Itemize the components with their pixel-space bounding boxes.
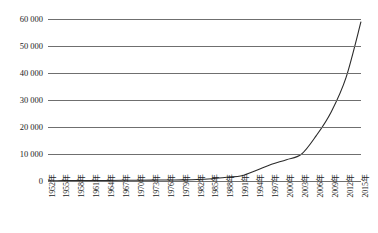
x-axis-tick-text: 1991年: [242, 174, 250, 197]
x-axis-tick-label: 2009年: [325, 184, 337, 194]
x-axis-tick-label: 1952年: [42, 184, 54, 194]
x-axis-tick-label: 1988年: [221, 184, 233, 194]
x-axis-tick-text: 1994年: [257, 174, 265, 197]
x-axis-tick-text: 1964年: [108, 174, 116, 197]
x-axis-tick-label: 1964年: [102, 184, 114, 194]
x-axis-tick-text: 1988年: [227, 174, 235, 197]
x-axis-tick-text: 1958年: [78, 174, 86, 197]
x-axis-tick-text: 1970年: [137, 174, 145, 197]
gridline: [48, 46, 361, 47]
x-axis-tick-text: 1955年: [63, 174, 71, 197]
x-axis-tick-text: 2003年: [301, 174, 309, 197]
gridline: [48, 100, 361, 101]
x-axis-tick-text: 1967年: [123, 174, 131, 197]
x-axis-tick-text: 1961年: [93, 174, 101, 197]
x-axis-tick-text: 2012年: [346, 174, 354, 197]
x-axis-tick-label: 1976年: [161, 184, 173, 194]
x-axis-tick-text: 1985年: [212, 174, 220, 197]
x-axis-tick-label: 2015年: [355, 184, 367, 194]
gridline: [48, 127, 361, 128]
x-axis-tick-label: 1997年: [266, 184, 278, 194]
x-axis-tick-label: 1982年: [191, 184, 203, 194]
y-axis-tick-label: 40 000: [20, 69, 43, 78]
x-axis-tick-label: 1985年: [206, 184, 218, 194]
gridline: [48, 154, 361, 155]
x-axis-tick-label: 1991年: [236, 184, 248, 194]
y-axis-tick-label: 60 000: [20, 15, 43, 24]
x-axis-tick-label: 1979年: [176, 184, 188, 194]
x-axis-labels: 1952年1955年1958年1961年1964年1967年1970年1973年…: [48, 184, 361, 232]
x-axis-tick-label: 1967年: [117, 184, 129, 194]
x-axis-tick-label: 2012年: [340, 184, 352, 194]
x-axis-tick-text: 1979年: [182, 174, 190, 197]
x-axis-tick-label: 2000年: [280, 184, 292, 194]
y-axis-tick-label: 10 000: [20, 150, 43, 159]
x-axis-tick-label: 1994年: [251, 184, 263, 194]
x-axis-tick-label: 1955年: [57, 184, 69, 194]
x-axis-tick-label: 1970年: [131, 184, 143, 194]
gridline: [48, 73, 361, 74]
gridline: [48, 19, 361, 20]
x-axis-tick-label: 1961年: [87, 184, 99, 194]
x-axis-tick-text: 2006年: [316, 174, 324, 197]
x-axis-tick-text: 1997年: [272, 174, 280, 197]
x-axis-tick-text: 1952年: [48, 174, 56, 197]
x-axis-tick-label: 1973年: [146, 184, 158, 194]
x-axis-tick-text: 1976年: [167, 174, 175, 197]
x-axis-tick-label: 2003年: [295, 184, 307, 194]
x-axis-tick-text: 2000年: [286, 174, 294, 197]
x-axis-tick-text: 1973年: [152, 174, 160, 197]
x-axis-tick-label: 1958年: [72, 184, 84, 194]
x-axis-tick-text: 2009年: [331, 174, 339, 197]
y-axis-tick-label: 20 000: [20, 123, 43, 132]
line-chart: 010 00020 00030 00040 00050 00060 000 19…: [0, 0, 378, 233]
x-axis-tick-text: 1982年: [197, 174, 205, 197]
y-axis-tick-label: 50 000: [20, 42, 43, 51]
plot-area: 010 00020 00030 00040 00050 00060 000: [48, 19, 361, 181]
x-axis-tick-label: 2006年: [310, 184, 322, 194]
x-axis-tick-text: 2015年: [361, 174, 369, 197]
y-axis-tick-label: 30 000: [20, 96, 43, 105]
